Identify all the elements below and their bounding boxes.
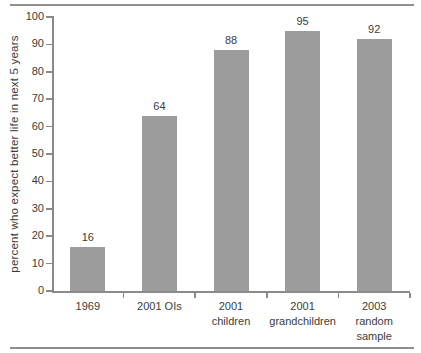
bar: [70, 247, 105, 291]
y-tick-label: 40: [0, 174, 44, 186]
x-axis-tick: [266, 293, 268, 298]
bottom-rule: [10, 347, 414, 349]
x-axis-tick: [409, 293, 411, 298]
bar-value-label: 64: [134, 100, 184, 112]
category-label: 2003 random sample: [326, 299, 421, 344]
top-rule: [10, 4, 414, 6]
y-tick-label: 50: [0, 147, 44, 159]
y-tick-label: 30: [0, 202, 44, 214]
x-axis-line: [52, 291, 410, 293]
figure: percent who expect better life in next 5…: [0, 0, 421, 353]
y-tick-label: 90: [0, 37, 44, 49]
y-tick-label: 10: [0, 257, 44, 269]
x-axis-tick: [123, 293, 125, 298]
bar: [357, 39, 392, 291]
bar: [214, 50, 249, 291]
y-tick-label: 60: [0, 120, 44, 132]
bar: [142, 116, 177, 291]
y-tick-label: 20: [0, 229, 44, 241]
y-tick-label: 70: [0, 92, 44, 104]
bar-value-label: 95: [278, 15, 328, 27]
bar: [285, 31, 320, 291]
y-tick-label: 100: [0, 10, 44, 22]
y-tick-label: 0: [0, 284, 44, 296]
bar-value-label: 92: [349, 23, 399, 35]
y-tick-label: 80: [0, 65, 44, 77]
bar-value-label: 16: [63, 231, 113, 243]
x-axis-tick: [194, 293, 196, 298]
bar-value-label: 88: [206, 34, 256, 46]
y-axis-line: [52, 16, 54, 291]
x-axis-tick: [338, 293, 340, 298]
